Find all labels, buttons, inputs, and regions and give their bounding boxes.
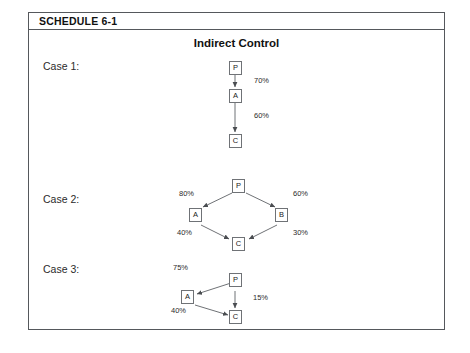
case-2-label: Case 2: xyxy=(43,193,79,205)
case-2-edge-p-a-percent: 80% xyxy=(179,189,194,198)
schedule-frame: SCHEDULE 6-1 Indirect Control Case 1: P … xyxy=(28,12,445,330)
case-3-edge-p-a-percent: 75% xyxy=(173,263,188,272)
case-2-edges xyxy=(29,13,446,331)
case-2-node-b: B xyxy=(275,208,288,222)
diagram-title: Indirect Control xyxy=(29,37,444,49)
case-3-edge-a-c-percent: 40% xyxy=(171,306,186,315)
case-1-node-a: A xyxy=(229,89,242,103)
case-1-edges xyxy=(29,13,446,331)
case-1-label: Case 1: xyxy=(43,60,79,72)
case-3-label: Case 3: xyxy=(43,263,79,275)
case-2-edge-b-c-percent: 30% xyxy=(293,228,308,237)
case-1-edge-p-a-percent: 70% xyxy=(254,76,269,85)
case-1-node-c: C xyxy=(229,134,242,148)
case-3-diagram: P A C 75% 15% 40% xyxy=(29,13,446,331)
case-1-edge-a-c-percent: 60% xyxy=(254,111,269,120)
case-2-node-p: P xyxy=(232,179,245,193)
case-2-node-c: C xyxy=(232,237,245,251)
schedule-title-bar: SCHEDULE 6-1 xyxy=(29,13,444,30)
case-2-diagram: P A B C 80% 60% 40% 30% xyxy=(29,13,446,331)
case-3-node-p: P xyxy=(229,273,242,287)
case-1-node-p: P xyxy=(229,61,242,75)
case-2-edge-p-b-percent: 60% xyxy=(293,189,308,198)
case-3-edge-p-c-percent: 15% xyxy=(253,293,268,302)
case-2-edge-a-c-percent: 40% xyxy=(177,228,192,237)
case-3-node-a: A xyxy=(181,290,194,304)
schedule-number-label: SCHEDULE 6-1 xyxy=(39,15,117,27)
case-3-node-c: C xyxy=(229,310,242,324)
case-2-node-a: A xyxy=(189,208,202,222)
case-1-diagram: P A C 70% 60% xyxy=(29,13,446,331)
case-3-edges xyxy=(29,13,446,331)
